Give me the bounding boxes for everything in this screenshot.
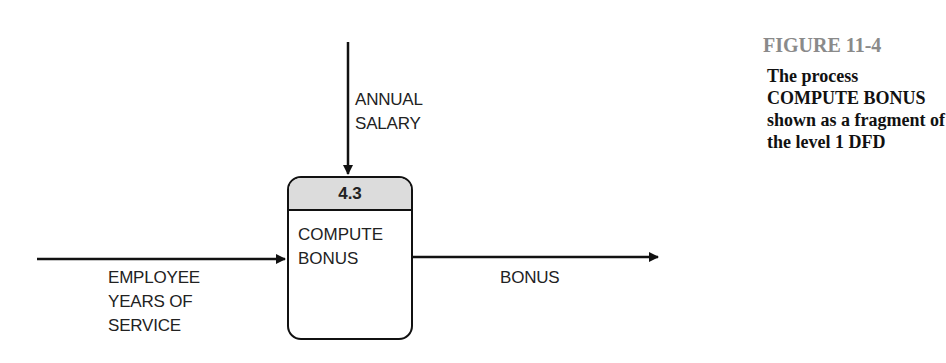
employee-years-line3: SERVICE [108, 314, 200, 338]
figure-caption: The process COMPUTE BONUS shown as a fra… [767, 65, 946, 153]
process-compute-bonus: 4.3 COMPUTE BONUS [287, 176, 413, 340]
process-id: 4.3 [289, 178, 411, 211]
figure-number: FIGURE 11-4 [763, 34, 881, 57]
bonus-label: BONUS [500, 266, 559, 290]
annual-salary-label: ANNUAL SALARY [355, 88, 423, 136]
process-name-line2: BONUS [298, 247, 411, 271]
annual-salary-line1: ANNUAL [355, 88, 423, 112]
employee-years-line2: YEARS OF [108, 290, 200, 314]
process-name: COMPUTE BONUS [289, 211, 411, 271]
employee-years-line1: EMPLOYEE [108, 266, 200, 290]
annual-salary-line2: SALARY [355, 112, 423, 136]
process-name-line1: COMPUTE [298, 223, 411, 247]
employee-years-label: EMPLOYEE YEARS OF SERVICE [108, 266, 200, 338]
